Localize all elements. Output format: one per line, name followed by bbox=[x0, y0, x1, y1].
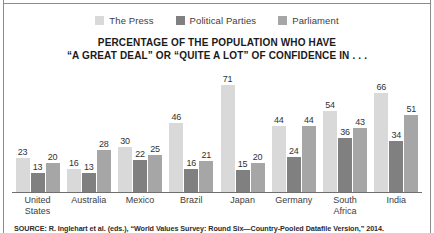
x-axis-tick-label: Japan bbox=[217, 195, 268, 216]
bar-value-label: 25 bbox=[150, 144, 160, 154]
x-axis-tick-label-line: Mexico bbox=[115, 195, 166, 206]
bar-group: 231320 bbox=[12, 68, 63, 193]
legend-item: Parliament bbox=[278, 15, 338, 26]
bar-column: 16 bbox=[184, 68, 198, 193]
frame-right-rule bbox=[430, 0, 431, 233]
bar-value-label: 43 bbox=[355, 117, 365, 127]
bar-value-label: 66 bbox=[376, 82, 386, 92]
x-axis-tick-label: Australia bbox=[63, 195, 114, 216]
bar-group: 543643 bbox=[320, 68, 371, 193]
bar-column: 21 bbox=[199, 68, 213, 193]
bar-column: 22 bbox=[133, 68, 147, 193]
chart-title-line-2: “A GREAT DEAL” OR “QUITE A LOT” OF CONFI… bbox=[0, 49, 434, 62]
bar bbox=[67, 169, 81, 193]
bar bbox=[236, 170, 250, 193]
x-axis-line bbox=[12, 192, 422, 193]
bar-value-label: 44 bbox=[304, 115, 314, 125]
x-axis-tick-label: UnitedStates bbox=[12, 195, 63, 216]
x-axis-tick-label: India bbox=[371, 195, 422, 216]
bar-value-label: 51 bbox=[406, 104, 416, 114]
source-note: SOURCE: R. Inglehart et al. (eds.), “Wor… bbox=[14, 224, 429, 233]
bar bbox=[16, 158, 30, 193]
legend-label: Political Parties bbox=[190, 15, 257, 26]
legend-item: Political Parties bbox=[176, 15, 257, 26]
legend-swatch-icon bbox=[176, 16, 185, 25]
bar-value-label: 28 bbox=[99, 139, 109, 149]
x-axis-tick-label-line: Australia bbox=[63, 195, 114, 206]
bar-column: 30 bbox=[118, 68, 132, 193]
bar-column: 25 bbox=[148, 68, 162, 193]
bar-value-label: 13 bbox=[33, 162, 43, 172]
bar-group: 711520 bbox=[217, 68, 268, 193]
bar bbox=[169, 123, 183, 193]
bar bbox=[272, 126, 286, 193]
bar-value-label: 16 bbox=[69, 158, 79, 168]
bar-column: 20 bbox=[46, 68, 60, 193]
bar-value-label: 21 bbox=[201, 150, 211, 160]
bar bbox=[148, 155, 162, 193]
x-axis-tick-label-line: Brazil bbox=[166, 195, 217, 206]
bar-value-label: 13 bbox=[84, 162, 94, 172]
bar-value-label: 36 bbox=[340, 127, 350, 137]
x-axis-tick-label-line: Japan bbox=[217, 195, 268, 206]
chart-figure: The PressPolitical PartiesParliament PER… bbox=[0, 0, 434, 233]
bar-value-label: 20 bbox=[48, 152, 58, 162]
bar-column: 51 bbox=[404, 68, 418, 193]
bar-group: 461621 bbox=[166, 68, 217, 193]
bar bbox=[184, 169, 198, 193]
legend-swatch-icon bbox=[278, 16, 287, 25]
chart-legend: The PressPolitical PartiesParliament bbox=[0, 15, 434, 26]
bar-group: 302225 bbox=[115, 68, 166, 193]
bar-column: 34 bbox=[389, 68, 403, 193]
bar-value-label: 15 bbox=[238, 159, 248, 169]
bar-column: 43 bbox=[353, 68, 367, 193]
x-axis-tick-label: Germany bbox=[268, 195, 319, 216]
bar bbox=[82, 173, 96, 193]
legend-swatch-icon bbox=[95, 16, 104, 25]
bar-groups: 2313201613283022254616217115204424445436… bbox=[12, 68, 422, 193]
bar bbox=[97, 150, 111, 193]
plot-area: 2313201613283022254616217115204424445436… bbox=[12, 68, 422, 193]
frame-left-rule bbox=[3, 0, 4, 233]
bar-group: 442444 bbox=[268, 68, 319, 193]
bar-value-label: 20 bbox=[253, 152, 263, 162]
x-axis-tick-label: Brazil bbox=[166, 195, 217, 216]
bar-value-label: 24 bbox=[289, 146, 299, 156]
x-axis-tick-labels: UnitedStatesAustraliaMexicoBrazilJapanGe… bbox=[12, 195, 422, 216]
bar-column: 44 bbox=[272, 68, 286, 193]
bar-group: 663451 bbox=[371, 68, 422, 193]
bar bbox=[323, 111, 337, 193]
bar-value-label: 46 bbox=[171, 112, 181, 122]
bar-value-label: 71 bbox=[223, 74, 233, 84]
bar-value-label: 22 bbox=[135, 149, 145, 159]
x-axis-tick-label-line: States bbox=[12, 206, 63, 217]
bar bbox=[353, 128, 367, 193]
bar bbox=[199, 161, 213, 193]
bar-value-label: 34 bbox=[391, 130, 401, 140]
legend-item: The Press bbox=[95, 15, 153, 26]
x-axis-tick-label-line: United bbox=[12, 195, 63, 206]
bar bbox=[31, 173, 45, 193]
bar-value-label: 23 bbox=[18, 147, 28, 157]
bar-column: 15 bbox=[236, 68, 250, 193]
x-axis-tick-label: Mexico bbox=[115, 195, 166, 216]
legend-label: Parliament bbox=[292, 15, 338, 26]
x-axis-tick-label: SouthAfrica bbox=[320, 195, 371, 216]
x-axis-tick-label-line: Germany bbox=[268, 195, 319, 206]
bar-column: 66 bbox=[374, 68, 388, 193]
bar bbox=[133, 160, 147, 193]
bar bbox=[404, 115, 418, 193]
bar-column: 71 bbox=[221, 68, 235, 193]
bar-group: 161328 bbox=[63, 68, 114, 193]
bar-column: 28 bbox=[97, 68, 111, 193]
bar-column: 24 bbox=[287, 68, 301, 193]
bar-column: 44 bbox=[302, 68, 316, 193]
bar-value-label: 30 bbox=[120, 136, 130, 146]
chart-title-line-1: PERCENTAGE OF THE POPULATION WHO HAVE bbox=[0, 36, 434, 49]
bar-column: 20 bbox=[251, 68, 265, 193]
bar bbox=[389, 141, 403, 193]
bar bbox=[118, 147, 132, 193]
bar-column: 16 bbox=[67, 68, 81, 193]
bar-column: 46 bbox=[169, 68, 183, 193]
legend-label: The Press bbox=[109, 15, 153, 26]
